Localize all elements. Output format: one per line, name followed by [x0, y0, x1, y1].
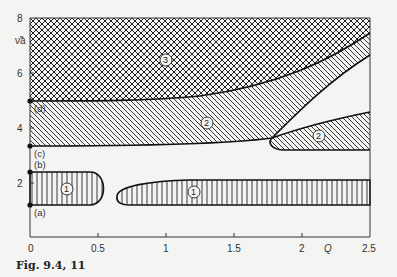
point-d-label: (d): [34, 103, 46, 114]
y-tick-8: 8: [17, 13, 23, 24]
phase-diagram: 0 0.5 1 1.5 2 Q 2.5 8 ν̃a 6 4 2 (a) (b) …: [0, 0, 397, 277]
x-tick-2.5: 2.5: [362, 243, 376, 254]
svg-text:2: 2: [316, 131, 321, 141]
region-label-2a: 2: [201, 117, 213, 129]
point-c-label: (c): [34, 148, 45, 159]
x-tick-2: 2: [299, 243, 305, 254]
region-label-1b: 1: [188, 186, 200, 198]
x-tick-0.5: 0.5: [91, 243, 105, 254]
point-b-label: (b): [34, 159, 46, 170]
y-tick-2: 2: [17, 178, 23, 189]
y-tick-4: 4: [17, 123, 23, 134]
x-tick-1.5: 1.5: [227, 243, 241, 254]
svg-text:1: 1: [64, 184, 69, 194]
y-tick-6: 6: [17, 68, 23, 79]
region-1-right: [117, 180, 370, 205]
region-label-2b: 2: [313, 130, 325, 142]
svg-text:1: 1: [191, 187, 196, 197]
point-a-label: (a): [34, 207, 46, 218]
svg-text:2: 2: [204, 118, 209, 128]
x-axis-label: Q: [324, 243, 332, 254]
figure-caption: Fig. 9.4, 11: [16, 259, 85, 272]
x-tick-1: 1: [163, 243, 169, 254]
y-axis-label: ν̃a: [15, 35, 26, 46]
x-tick-0: 0: [28, 243, 34, 254]
region-label-1a: 1: [61, 183, 73, 195]
svg-text:3: 3: [163, 55, 168, 65]
region-label-3: 3: [160, 54, 172, 66]
